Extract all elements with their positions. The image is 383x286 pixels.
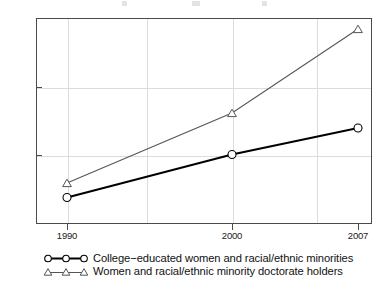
- marker-triangle-1990: [63, 179, 72, 186]
- series-doctorate-holders: [63, 25, 363, 186]
- series-line-college-educated: [67, 128, 358, 198]
- circle-line-marker-icon: [44, 251, 88, 264]
- marker-triangle-2007: [354, 25, 363, 32]
- marker-circle-2007: [354, 124, 362, 132]
- legend-label-college-educated: College−educated women and racial/ethnic…: [93, 252, 353, 264]
- legend-label-doctorate-holders: Women and racial/ethnic minority doctora…: [93, 265, 343, 277]
- chart-figure: 35% 30% 25% 20% 1990 2000 2007: [0, 0, 383, 286]
- legend-item-college-educated: College−educated women and racial/ethnic…: [44, 251, 374, 264]
- series-college-educated: [63, 124, 362, 202]
- chart-legend: College−educated women and racial/ethnic…: [44, 251, 374, 277]
- legend-item-doctorate-holders: Women and racial/ethnic minority doctora…: [44, 264, 374, 277]
- marker-circle-2000: [228, 151, 236, 159]
- series-layer: [0, 0, 383, 286]
- triangle-line-marker-icon: [44, 264, 88, 277]
- marker-circle-1990: [63, 194, 71, 202]
- marker-triangle-2000: [228, 109, 237, 116]
